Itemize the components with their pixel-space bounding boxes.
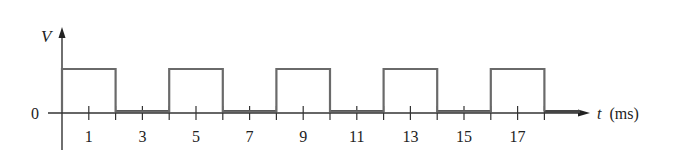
x-tick-labels: 1357911131517 (85, 128, 526, 145)
y-axis-label: V (41, 27, 54, 46)
y-axis-arrow-icon (59, 27, 66, 38)
x-axis-var: t (597, 105, 602, 122)
x-tick-label: 3 (138, 128, 146, 145)
x-tick-label: 15 (456, 128, 472, 145)
square-wave-chart: 1357911131517 V 0 t (ms) (0, 0, 684, 162)
x-tick-label: 7 (246, 128, 254, 145)
x-tick-label: 1 (85, 128, 93, 145)
x-axis-unit: (ms) (609, 105, 638, 123)
x-axis-label: t (ms) (597, 105, 639, 123)
x-tick-label: 11 (349, 128, 364, 145)
x-tick-label: 9 (299, 128, 307, 145)
y-zero-label: 0 (31, 105, 39, 122)
square-wave-trace (62, 69, 544, 112)
x-tick-label: 17 (510, 128, 526, 145)
x-tick-label: 13 (402, 128, 418, 145)
x-tick-label: 5 (192, 128, 200, 145)
